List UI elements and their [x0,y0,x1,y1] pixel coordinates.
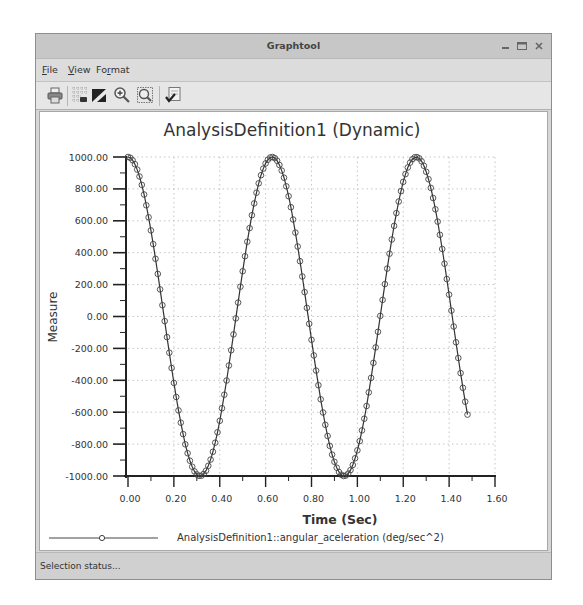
x-tick-label: 0.40 [211,493,232,504]
x-tick-label: 1.20 [395,493,416,504]
chart-title: AnalysisDefinition1 (Dynamic) [164,120,421,140]
y-tick-label: 0.00 [87,311,108,322]
legend: AnalysisDefinition1::angular_aceleration… [49,532,444,544]
y-tick-label: -400.00 [71,375,108,386]
x-tick-label: 0.00 [119,493,140,504]
y-tick-label: -200.00 [71,343,108,354]
y-tick-label: 600.00 [75,215,108,226]
y-tick-label: 800.00 [75,183,108,194]
y-tick-labels: 1000.00800.00600.00400.00200.000.00-200.… [65,152,108,482]
legend-marker-icon [99,535,104,540]
y-tick-label: -600.00 [71,407,108,418]
x-tick-label: 0.60 [257,493,278,504]
x-tick-labels: 0.000.200.400.600.801.001.201.401.60 [119,493,507,504]
axes [113,156,496,487]
x-tick-label: 0.20 [165,493,186,504]
y-axis-label: Measure [46,292,60,343]
grid-lines [128,157,495,476]
x-axis-label: Time (Sec) [303,512,378,527]
x-tick-label: 0.80 [303,493,324,504]
y-tick-label: 1000.00 [69,152,108,163]
y-tick-label: 400.00 [75,247,108,258]
x-tick-label: 1.60 [486,493,507,504]
chart-svg: AnalysisDefinition1 (Dynamic) 1000.00800… [0,0,583,605]
y-tick-label: 200.00 [75,279,108,290]
y-tick-label: -800.00 [71,439,108,450]
x-tick-label: 1.00 [349,493,370,504]
data-series [125,154,470,479]
y-tick-label: -1000.00 [65,471,108,482]
x-tick-label: 1.40 [441,493,462,504]
legend-label: AnalysisDefinition1::angular_aceleration… [177,532,444,544]
